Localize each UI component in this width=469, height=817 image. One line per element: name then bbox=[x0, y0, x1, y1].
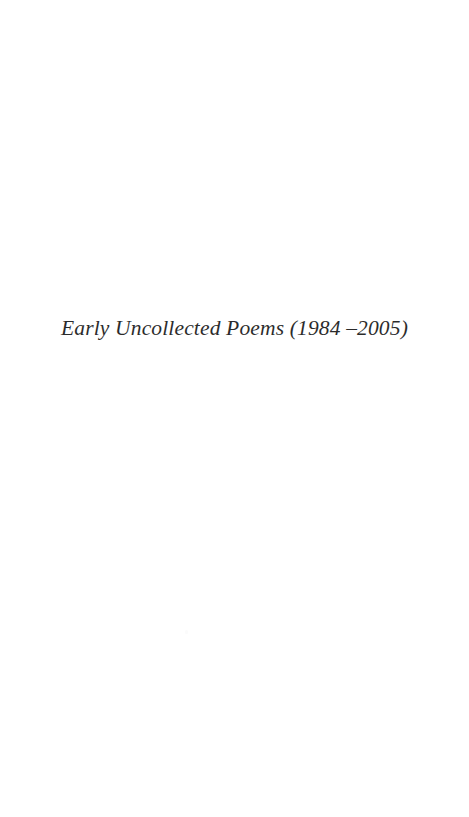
section-divider-heading: Early Uncollected Poems (1984 –2005) bbox=[0, 315, 469, 342]
scan-artifact-speck bbox=[185, 630, 188, 634]
section-title-text: Early Uncollected Poems (1984 –2005) bbox=[61, 315, 408, 342]
book-page: Early Uncollected Poems (1984 –2005) bbox=[0, 0, 469, 817]
